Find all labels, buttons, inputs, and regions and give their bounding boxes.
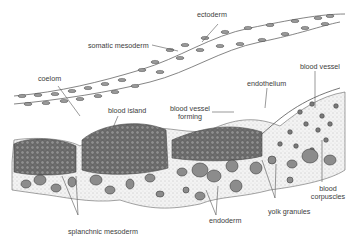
label-blood-vessel-forming-line2: forming — [168, 113, 212, 121]
label-coelom: coelom — [38, 75, 61, 83]
label-blood-corpuscles-line2: corpuscles — [308, 193, 348, 201]
label-blood-vessel: blood vessel — [300, 63, 340, 71]
label-somatic-mesoderm: somatic mesoderm — [88, 42, 149, 50]
label-ectoderm: ectoderm — [197, 11, 227, 19]
diagram-canvas: ectoderm somatic mesoderm coelom blood i… — [0, 0, 357, 244]
label-blood-corpuscles: blood corpuscles — [308, 185, 348, 201]
ectoderm-cells — [18, 14, 334, 105]
label-splanchnic-mesoderm: splanchnic mesoderm — [68, 228, 138, 236]
label-yolk-granules: yolk granules — [268, 208, 310, 216]
label-endoderm: endoderm — [209, 217, 241, 225]
label-endothelium: endothelium — [247, 80, 286, 88]
label-blood-vessel-forming: blood vessel forming — [168, 105, 212, 121]
label-blood-island: blood island — [108, 107, 146, 115]
